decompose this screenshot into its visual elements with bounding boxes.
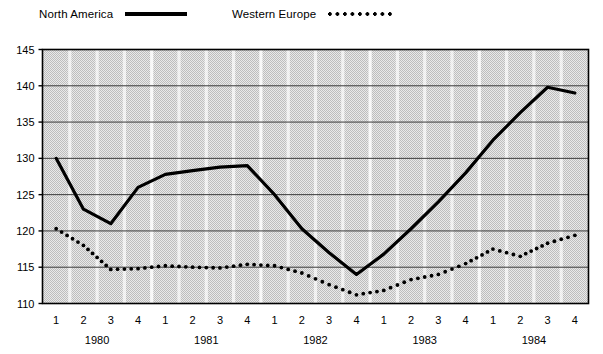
western-europe-dot: [361, 292, 365, 296]
western-europe-dot: [218, 266, 222, 270]
x-tick-label-quarter: 3: [326, 314, 332, 326]
western-europe-dot: [457, 264, 461, 268]
western-europe-dot: [116, 267, 120, 271]
x-axis-year-label: 1982: [303, 334, 327, 346]
western-europe-dot: [327, 283, 331, 287]
x-tick-label-quarter: 3: [435, 314, 441, 326]
western-europe-dot: [150, 265, 154, 269]
western-europe-dot: [170, 264, 174, 268]
x-axis-year-labels: 19801981198219831984: [85, 334, 546, 346]
x-tick-label-quarter: 3: [217, 314, 223, 326]
x-tick-label-quarter: 1: [53, 314, 59, 326]
legend-dotted-line-icon: [328, 8, 394, 20]
western-europe-dot: [348, 290, 352, 294]
western-europe-dot: [95, 256, 99, 260]
economic-indicator-line-chart: North America Western Europe 11011512012…: [0, 0, 603, 354]
western-europe-dot: [559, 237, 563, 241]
western-europe-dot: [86, 248, 90, 252]
western-europe-dot: [71, 237, 75, 241]
western-europe-dot: [314, 277, 318, 281]
y-tick-label: 125: [16, 189, 34, 201]
western-europe-dot: [82, 244, 86, 248]
western-europe-dot: [266, 264, 270, 268]
western-europe-dot: [191, 265, 195, 269]
western-europe-dot: [368, 291, 372, 295]
western-europe-dot: [469, 259, 473, 263]
western-europe-dot: [552, 239, 556, 243]
western-europe-dot: [320, 280, 324, 284]
x-tick-label-quarter: 4: [135, 314, 141, 326]
western-europe-dot: [491, 247, 495, 251]
western-europe-dot: [355, 293, 359, 297]
legend-label-western-europe: Western Europe: [232, 8, 316, 20]
western-europe-dot: [382, 289, 386, 293]
western-europe-dot: [396, 283, 400, 287]
y-tick-label: 145: [16, 44, 34, 56]
legend-solid-line-icon: [125, 8, 187, 20]
western-europe-dot: [402, 280, 406, 284]
x-tick-label-quarter: 3: [108, 314, 114, 326]
western-europe-dot: [443, 270, 447, 274]
western-europe-dot: [540, 244, 544, 248]
chart-legend: North America Western Europe: [0, 0, 603, 34]
x-axis-year-label: 1980: [85, 334, 109, 346]
x-axis-year-label: 1984: [522, 334, 546, 346]
western-europe-dot: [100, 260, 104, 264]
x-tick-label-quarter: 2: [408, 314, 414, 326]
western-europe-dot: [409, 278, 413, 282]
x-tick-label-quarter: 4: [572, 314, 578, 326]
legend-item-western-europe: Western Europe: [232, 4, 394, 24]
western-europe-dot: [157, 265, 161, 269]
western-europe-dot: [109, 267, 113, 271]
western-europe-dot: [143, 266, 147, 270]
western-europe-dot: [524, 252, 528, 256]
legend-item-north-america: North America: [39, 4, 187, 24]
x-tick-label-quarter: 1: [271, 314, 277, 326]
western-europe-dot: [486, 250, 490, 254]
y-tick-label: 135: [16, 116, 34, 128]
western-europe-dot: [76, 240, 80, 244]
western-europe-dot: [300, 271, 304, 275]
western-europe-dot: [239, 263, 243, 267]
x-axis-quarter-labels: 12341234123412341234: [53, 314, 578, 326]
chart-svg: 110115120125130135140145 123412341234123…: [0, 30, 603, 354]
x-tick-label-quarter: 2: [517, 314, 523, 326]
western-europe-dot: [573, 233, 577, 237]
y-tick-label: 130: [16, 152, 34, 164]
western-europe-dot: [211, 266, 215, 270]
western-europe-dot: [529, 249, 533, 253]
x-tick-label-quarter: 1: [162, 314, 168, 326]
western-europe-dot: [518, 254, 522, 258]
western-europe-dot: [259, 263, 263, 267]
x-tick-label-quarter: 2: [299, 314, 305, 326]
x-tick-label-quarter: 1: [381, 314, 387, 326]
western-europe-dot: [279, 266, 283, 270]
western-europe-dot: [546, 241, 550, 245]
western-europe-dot: [204, 266, 208, 270]
western-europe-dot: [566, 235, 570, 239]
western-europe-dot: [436, 273, 440, 277]
western-europe-dot: [293, 269, 297, 273]
western-europe-dot: [54, 227, 58, 231]
y-axis-tick-labels: 110115120125130135140145: [16, 44, 42, 310]
western-europe-dot: [450, 267, 454, 271]
western-europe-dot: [184, 265, 188, 269]
western-europe-dot: [177, 265, 181, 269]
plot-area-wrapper: 110115120125130135140145 123412341234123…: [0, 30, 603, 354]
x-tick-label-quarter: 3: [544, 314, 550, 326]
western-europe-dot: [273, 264, 277, 268]
western-europe-dot: [535, 247, 539, 251]
western-europe-dot: [423, 275, 427, 279]
x-tick-label-quarter: 1: [490, 314, 496, 326]
x-tick-label-quarter: 2: [80, 314, 86, 326]
western-europe-dot: [389, 286, 393, 290]
western-europe-dot: [498, 249, 502, 253]
western-europe-dot: [341, 288, 345, 292]
western-europe-dot: [123, 267, 127, 271]
western-europe-dot: [129, 267, 133, 271]
western-europe-dot: [430, 274, 434, 278]
western-europe-dot: [375, 290, 379, 294]
y-tick-label: 110: [17, 298, 35, 310]
western-europe-dot: [198, 266, 202, 270]
western-europe-dot: [416, 276, 420, 280]
